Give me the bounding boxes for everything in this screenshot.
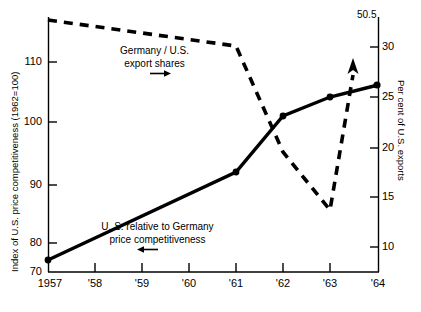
- x-axis-tick-63: '63: [313, 278, 347, 289]
- right-axis-tick-15: 15: [382, 191, 394, 202]
- annotation-bottom-line1: U. S. relative to Germany: [80, 222, 235, 232]
- annotation-bottom-line2: price competitiveness: [80, 235, 235, 245]
- x-axis-tick-58: '58: [78, 278, 112, 289]
- right-axis-tick-30: 30: [382, 41, 394, 52]
- x-axis-tick-59: '59: [125, 278, 159, 289]
- right-axis-title: Per cent of U.S. exports: [397, 80, 407, 181]
- right-axis-ticks: [370, 47, 379, 247]
- right-axis-tick-20: 20: [382, 142, 394, 153]
- x-axis-tick-62: '62: [266, 278, 300, 289]
- x-axis-tick-60: '60: [172, 278, 206, 289]
- left-axis-tick-110: 110: [8, 56, 42, 67]
- x-axis-tick-1957: 1957: [30, 278, 70, 289]
- offscale-value-label: 50.5: [357, 10, 376, 20]
- left-axis-ticks: [49, 62, 58, 243]
- annotation-top-line1: Germany / U.S.: [92, 46, 217, 56]
- annotation-arrow-left-icon: [137, 246, 158, 253]
- annotation-germany-us-export-shares: Germany / U.S. export shares: [92, 46, 217, 69]
- x-axis-tick-61: '61: [219, 278, 253, 289]
- annotation-arrow-right-icon: [150, 70, 171, 77]
- right-axis-tick-10: 10: [382, 241, 394, 252]
- x-axis-tick-64: '64: [361, 278, 395, 289]
- x-axis-ticks: [95, 263, 330, 272]
- annotation-top-line2: export shares: [92, 59, 217, 69]
- chart-figure: 70 80 90 100 110 30 25 20 15 10 1957 '58…: [0, 0, 421, 312]
- annotation-us-relative-to-germany: U. S. relative to Germany price competit…: [80, 222, 235, 245]
- right-axis-tick-25: 25: [382, 91, 394, 102]
- left-axis-title: Index of U.S. price competitiveness (196…: [10, 72, 20, 272]
